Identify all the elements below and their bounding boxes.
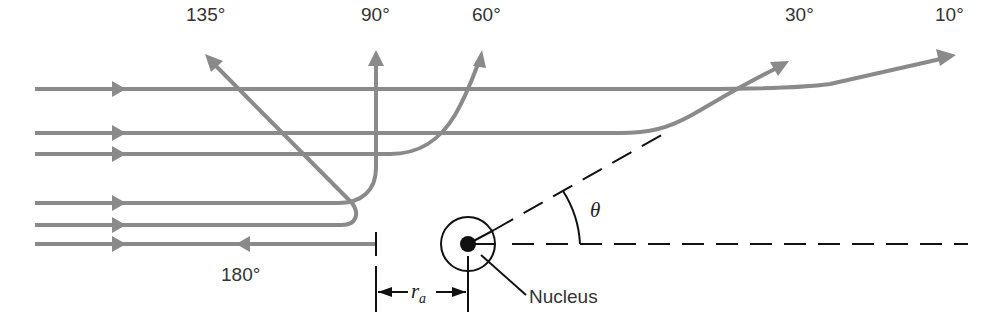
angle-ray-inner-segment xyxy=(468,230,494,244)
trajectory-10deg-path xyxy=(35,58,945,89)
trajectory-135deg xyxy=(35,54,356,233)
trajectory-30deg-path xyxy=(35,69,775,133)
outgoing-arrow-icon xyxy=(368,50,384,66)
label-30deg: 30° xyxy=(785,4,814,25)
label-90deg: 90° xyxy=(361,4,390,25)
trajectory-30deg xyxy=(35,61,789,141)
incoming-arrow-icon xyxy=(112,217,126,233)
ra-left-arrow-icon xyxy=(378,287,392,297)
trajectory-180deg xyxy=(35,232,376,256)
trajectory-90deg xyxy=(35,50,384,211)
return-arrow-icon xyxy=(236,236,250,252)
label-theta: θ xyxy=(590,198,600,222)
asymptote-dashed xyxy=(494,133,665,230)
label-nucleus: Nucleus xyxy=(529,286,598,307)
angle-arc xyxy=(563,191,580,244)
label-60deg: 60° xyxy=(472,4,501,25)
ra-right-arrow-icon xyxy=(452,287,466,297)
incoming-arrow-icon xyxy=(112,146,126,162)
nucleus-leader-line xyxy=(481,255,526,295)
incoming-arrow-icon xyxy=(112,125,126,141)
outgoing-arrow-icon xyxy=(936,49,956,66)
scattering-diagram: 135° 90° 60° 30° 10° 180° Nucleus θ r a xyxy=(0,0,984,333)
incoming-arrow-icon xyxy=(112,195,126,211)
trajectory-60deg xyxy=(35,50,486,162)
nucleus xyxy=(441,217,526,295)
incoming-arrow-icon xyxy=(112,81,126,97)
incoming-arrow-icon xyxy=(112,236,126,252)
label-10deg: 10° xyxy=(935,4,964,25)
label-135deg: 135° xyxy=(186,4,225,25)
label-180deg: 180° xyxy=(221,264,260,285)
trajectory-10deg xyxy=(35,49,956,97)
outgoing-arrow-icon xyxy=(473,50,486,68)
label-ra-subscript: a xyxy=(419,291,426,306)
